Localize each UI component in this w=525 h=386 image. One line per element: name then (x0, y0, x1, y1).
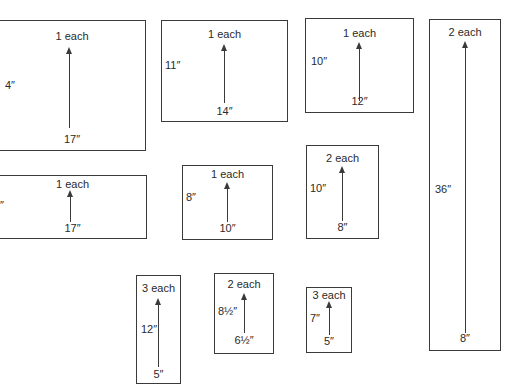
width-label: 5″ (307, 335, 351, 347)
width-label: 6½″ (215, 334, 273, 346)
width-label: 5″ (137, 368, 180, 380)
grain-arrow-icon (69, 53, 70, 128)
width-label: 8″ (430, 332, 500, 344)
length-label: 7″ (0, 199, 4, 211)
quantity-label: 2 each (307, 152, 378, 164)
quantity-label: 1 each (0, 178, 146, 190)
length-label: 8½″ (218, 305, 237, 317)
cut-piece-7x5: 3 each 7″ 5″ (306, 287, 352, 353)
cut-piece-8half-x-6half: 2 each 8½″ 6½″ (214, 273, 274, 354)
quantity-label: 1 each (162, 28, 287, 40)
width-label: 12″ (306, 95, 413, 107)
grain-arrow-icon (227, 188, 228, 222)
width-label: 17″ (0, 222, 146, 234)
width-label: 17″ (0, 133, 145, 145)
length-label: 7″ (310, 312, 320, 324)
grain-arrow-icon (465, 47, 466, 333)
cut-piece-10x8: 2 each 10″ 8″ (306, 145, 379, 239)
quantity-label: 3 each (307, 289, 351, 301)
grain-arrow-icon (158, 304, 159, 367)
length-label: 11″ (165, 59, 180, 71)
quantity-label: 1 each (0, 30, 145, 42)
cut-piece-4x17: 1 each 4″ 17″ (0, 20, 146, 151)
length-label: 10″ (310, 182, 326, 194)
quantity-label: 2 each (215, 278, 273, 290)
length-label: 36″ (435, 183, 451, 195)
width-label: 10″ (183, 222, 272, 234)
length-label: 12″ (141, 323, 157, 335)
quantity-label: 1 each (306, 27, 413, 39)
cut-piece-10x12: 1 each 10″ 12″ (305, 18, 414, 113)
length-label: 10″ (311, 55, 327, 67)
width-label: 14″ (162, 105, 287, 117)
grain-arrow-icon (244, 299, 245, 333)
cut-piece-11x14: 1 each 11″ 14″ (161, 20, 288, 122)
length-label: 8″ (186, 191, 196, 203)
grain-arrow-icon (342, 172, 343, 221)
cut-piece-36x8: 2 each 36″ 8″ (429, 19, 501, 351)
grain-arrow-icon (359, 48, 360, 101)
length-label: 4″ (5, 79, 15, 91)
grain-arrow-icon (329, 307, 330, 335)
grain-arrow-icon (224, 50, 225, 103)
quantity-label: 3 each (137, 282, 180, 294)
grain-arrow-icon (70, 196, 71, 222)
cut-piece-8x10: 1 each 8″ 10″ (182, 165, 273, 240)
quantity-label: 1 each (183, 168, 272, 180)
cut-piece-7x17: 1 each 7″ 17″ (0, 175, 147, 239)
cut-piece-12x5: 3 each 12″ 5″ (136, 275, 181, 384)
quantity-label: 2 each (430, 26, 500, 38)
width-label: 8″ (307, 221, 378, 233)
